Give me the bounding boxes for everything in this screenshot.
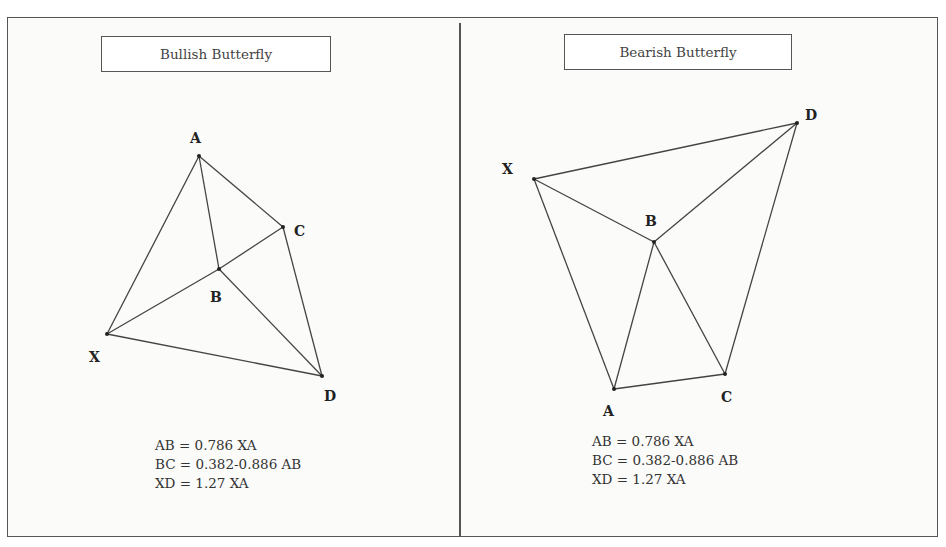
bearish-butterfly-pattern: XABCD — [502, 107, 817, 419]
bullish-point-b — [217, 267, 221, 271]
bearish-segment-ac — [614, 374, 725, 389]
bearish-label-c: C — [721, 389, 732, 405]
bullish-butterfly-pattern: XABCD — [89, 130, 336, 404]
bearish-segment-ab — [614, 242, 654, 389]
bearish-label-x: X — [502, 161, 513, 177]
bullish-formulas: AB = 0.786 XA BC = 0.382-0.886 AB XD = 1… — [155, 436, 301, 493]
bullish-segment-bc — [219, 227, 283, 269]
bullish-segment-xd — [107, 334, 322, 376]
bullish-label-b: B — [210, 289, 222, 305]
bearish-segment-bc — [654, 242, 725, 374]
bullish-segment-cd — [283, 227, 322, 376]
bullish-formula-bc: BC = 0.382-0.886 AB — [155, 455, 301, 474]
bullish-point-a — [197, 154, 201, 158]
bearish-segment-xa — [534, 179, 614, 389]
bullish-label-x: X — [89, 349, 100, 365]
bullish-point-d — [320, 374, 324, 378]
bullish-formula-ab: AB = 0.786 XA — [155, 436, 301, 455]
bearish-label-a: A — [602, 403, 615, 419]
bullish-segment-bd — [219, 269, 322, 376]
bearish-formula-ab: AB = 0.786 XA — [592, 432, 738, 451]
bearish-label-b: B — [645, 213, 657, 229]
bearish-point-a — [612, 387, 616, 391]
butterfly-diagrams: XABCD XABCD — [0, 0, 946, 547]
bullish-formula-xd: XD = 1.27 XA — [155, 474, 301, 493]
bullish-label-a: A — [189, 130, 202, 146]
bearish-segment-xb — [534, 179, 654, 242]
bullish-segment-ac — [199, 156, 283, 227]
bearish-point-c — [723, 372, 727, 376]
bullish-segment-ab — [199, 156, 219, 269]
bullish-point-c — [281, 225, 285, 229]
bearish-formula-xd: XD = 1.27 XA — [592, 470, 738, 489]
bearish-point-b — [652, 240, 656, 244]
bearish-point-d — [795, 121, 799, 125]
bullish-label-d: D — [324, 388, 336, 404]
bearish-label-d: D — [805, 107, 817, 123]
bullish-label-c: C — [294, 223, 305, 239]
bearish-segment-cd — [725, 123, 797, 374]
bullish-point-x — [105, 332, 109, 336]
bearish-point-x — [532, 177, 536, 181]
bearish-formula-bc: BC = 0.382-0.886 AB — [592, 451, 738, 470]
bearish-segment-bd — [654, 123, 797, 242]
bearish-formulas: AB = 0.786 XA BC = 0.382-0.886 AB XD = 1… — [592, 432, 738, 489]
bearish-segment-xd — [534, 123, 797, 179]
